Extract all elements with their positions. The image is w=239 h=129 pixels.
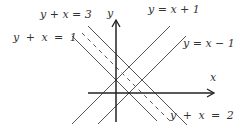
x-axis-label: x (210, 72, 216, 83)
line-y-plus-x-eq-2 (82, 33, 172, 123)
y-axis-label: y (107, 8, 113, 19)
label-y-eq-x-plus-1: y = x + 1 (148, 4, 200, 15)
line-y-plus-x-eq-1 (72, 36, 157, 121)
label-y-plus-x-eq-3: y + x = 3 (40, 9, 92, 20)
label-y-eq-x-minus-1: y = x − 1 (183, 38, 235, 49)
label-y-plus-x-eq-1: y + x = 1 (13, 32, 77, 43)
label-y-plus-x-eq-2: y + x = 2 (170, 110, 234, 121)
line-y-eq-x-plus-1 (72, 26, 170, 124)
